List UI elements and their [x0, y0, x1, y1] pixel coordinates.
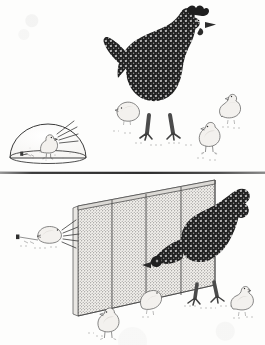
scanned-page: [0, 0, 265, 345]
panel-bottom-region: [0, 173, 265, 345]
panel-top-region: [0, 0, 265, 173]
